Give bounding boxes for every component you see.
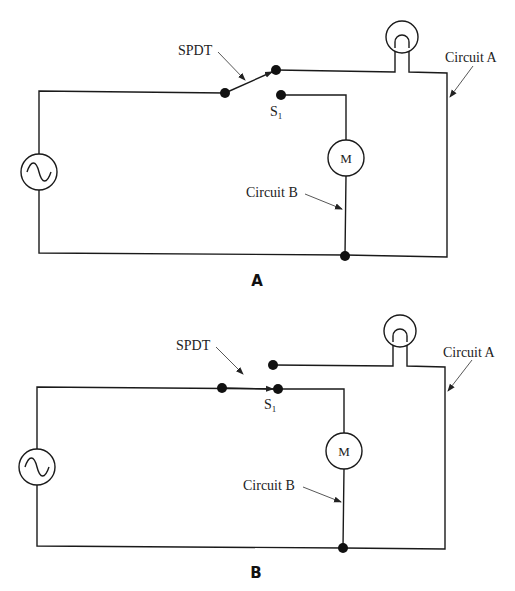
wire-circuit-b [281, 95, 346, 255]
spdt-switch [217, 360, 283, 394]
svg-text:M: M [340, 151, 352, 166]
s1-label: S1 [264, 397, 276, 414]
wire-source-left [39, 48, 447, 257]
motor-icon: M [326, 433, 362, 469]
panel-a: M SPDT S1 Circuit A Circuit B A [21, 21, 498, 290]
s1-label: S1 [270, 104, 282, 121]
spdt-label: SPDT [178, 43, 213, 58]
lamp-icon [384, 315, 416, 347]
circuit-b-label: Circuit B [246, 185, 298, 200]
ac-source-icon [21, 154, 57, 190]
panel-b-label: B [250, 564, 261, 582]
junction-dot [340, 251, 350, 261]
ac-source-icon [19, 449, 55, 485]
wire-source-left [37, 342, 445, 549]
spdt-label: SPDT [176, 338, 211, 353]
wire-circuit-a-top [276, 48, 395, 72]
wire-circuit-b [278, 389, 344, 548]
svg-text:M: M [338, 444, 350, 459]
circuit-b-label: Circuit B [243, 478, 295, 493]
wire-circuit-a-top [273, 342, 393, 366]
panel-a-label: A [251, 272, 263, 290]
circuit-a-label: Circuit A [443, 345, 496, 360]
circuit-figure: M SPDT S1 Circuit A Circuit B A [0, 0, 515, 591]
panel-b: M SPDT S1 Circuit A Circuit B B [19, 315, 496, 582]
motor-icon: M [328, 140, 364, 176]
circuit-a-label: Circuit A [445, 50, 498, 65]
junction-dot [338, 543, 348, 553]
lamp-icon [386, 21, 418, 53]
spdt-switch [220, 65, 286, 100]
